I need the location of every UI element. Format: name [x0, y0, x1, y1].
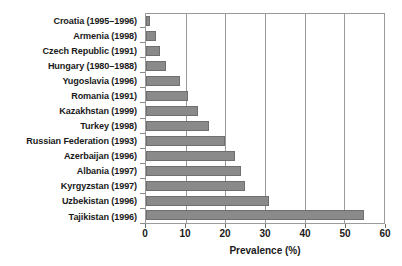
- bar-row: [146, 59, 384, 74]
- bar-row: [146, 148, 384, 163]
- x-tick-label: 40: [299, 228, 310, 239]
- bar-row: [146, 74, 384, 89]
- x-axis: 0102030405060: [145, 224, 385, 244]
- category-label: Kazakhstan (1999): [0, 103, 141, 118]
- bars-layer: [146, 14, 384, 223]
- bar: [146, 31, 156, 41]
- x-tick-label: 60: [379, 228, 390, 239]
- bar: [146, 181, 245, 191]
- category-label: Hungary (1980–1988): [0, 58, 141, 73]
- bar-row: [146, 133, 384, 148]
- bar-row: [146, 193, 384, 208]
- x-tick-label: 0: [142, 228, 148, 239]
- category-label: Kyrgyzstan (1997): [0, 179, 141, 194]
- bar: [146, 136, 225, 146]
- bar: [146, 61, 166, 71]
- category-label: Croatia (1995–1996): [0, 13, 141, 28]
- x-tick-label: 50: [339, 228, 350, 239]
- bar: [146, 151, 235, 161]
- category-label: Armenia (1998): [0, 28, 141, 43]
- bar-row: [146, 208, 384, 223]
- bar-row: [146, 89, 384, 104]
- bar: [146, 121, 209, 131]
- x-tick-label: 30: [259, 228, 270, 239]
- bar: [146, 166, 241, 176]
- category-label: Yugoslavia (1996): [0, 73, 141, 88]
- bar: [146, 106, 198, 116]
- bar: [146, 76, 180, 86]
- category-label: Turkey (1998): [0, 119, 141, 134]
- bar: [146, 91, 188, 101]
- x-tick-label: 10: [179, 228, 190, 239]
- category-label: Romania (1991): [0, 88, 141, 103]
- category-label: Uzbekistan (1996): [0, 194, 141, 209]
- x-axis-title: Prevalence (%): [145, 245, 385, 256]
- bar: [146, 46, 160, 56]
- prevalence-bar-chart: Croatia (1995–1996)Armenia (1998)Czech R…: [0, 0, 402, 266]
- bar: [146, 16, 150, 26]
- bar: [146, 210, 364, 220]
- bar-row: [146, 14, 384, 29]
- bar-row: [146, 44, 384, 59]
- bar-row: [146, 29, 384, 44]
- category-label-column: Croatia (1995–1996)Armenia (1998)Czech R…: [0, 13, 141, 224]
- bar-row: [146, 178, 384, 193]
- bar: [146, 196, 269, 206]
- category-label: Azerbaijan (1996): [0, 149, 141, 164]
- category-label: Czech Republic (1991): [0, 43, 141, 58]
- category-label: Albania (1997): [0, 164, 141, 179]
- bar-row: [146, 104, 384, 119]
- bar-row: [146, 163, 384, 178]
- category-label: Tajikistan (1996): [0, 209, 141, 224]
- x-tick-label: 20: [219, 228, 230, 239]
- plot-area: [145, 13, 385, 224]
- bar-row: [146, 118, 384, 133]
- category-label: Russian Federation (1993): [0, 134, 141, 149]
